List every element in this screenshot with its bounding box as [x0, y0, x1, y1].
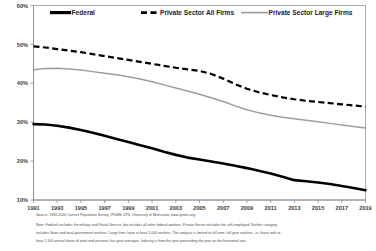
legend-label-private-sector-large-firms: Private Sector Large Firms: [269, 9, 353, 17]
x-tick-label: 2007: [217, 205, 229, 211]
chart-footnotes: Source: 1992-2020 Current Population Sur…: [36, 213, 280, 243]
x-tick-label: 2013: [288, 205, 300, 211]
y-tick-label: 20%: [17, 158, 28, 164]
y-tick-label: 50%: [17, 42, 28, 48]
note-line-3: least 1,500 annual hours of work and pre…: [36, 239, 247, 243]
x-tick-label: 1999: [122, 205, 134, 211]
x-tick-label: 2003: [170, 205, 182, 211]
x-tick-label: 2017: [336, 205, 348, 211]
x-tick-label: 2009: [241, 205, 253, 211]
x-tick-label: 1991: [27, 205, 39, 211]
y-tick-label: 30%: [17, 119, 28, 125]
series-line-private-sector-all-firms: [34, 46, 366, 106]
y-tick-label: 40%: [17, 80, 28, 86]
x-tick-label: 2011: [265, 205, 277, 211]
x-tick-label: 2005: [193, 205, 205, 211]
x-axis-tick-labels: 1991199319951997199920012003200520072009…: [27, 205, 371, 211]
y-axis-tick-labels: 60% 50% 40% 30% 20% 10%: [17, 3, 28, 204]
plot-area-border: [34, 6, 366, 201]
x-tick-label: 1995: [75, 205, 87, 211]
legend-label-federal: Federal: [72, 9, 96, 16]
series-line-private-sector-large-firms: [34, 68, 366, 128]
chart-legend: Federal Private Sector All Firms Private…: [50, 9, 353, 17]
chart-container: 60% 50% 40% 30% 20% 10% 1991199319951997…: [0, 0, 376, 251]
note-line-2: includes State and local government work…: [36, 231, 280, 235]
union-coverage-line-chart: 60% 50% 40% 30% 20% 10% 1991199319951997…: [0, 0, 376, 251]
source-note: Source: 1992-2020 Current Population Sur…: [36, 213, 196, 217]
legend-label-private-sector-all-firms: Private Sector All Firms: [160, 9, 234, 16]
y-tick-label: 60%: [17, 3, 28, 9]
x-tick-label: 1993: [51, 205, 63, 211]
x-tick-label: 2001: [146, 205, 158, 211]
note-line-1: Note: Federal excludes the military and …: [36, 223, 277, 227]
y-tick-label: 10%: [17, 197, 28, 203]
series-line-federal: [34, 124, 366, 190]
x-tick-label: 2019: [359, 205, 371, 211]
x-tick-label: 2015: [312, 205, 324, 211]
x-tick-label: 1997: [98, 205, 110, 211]
